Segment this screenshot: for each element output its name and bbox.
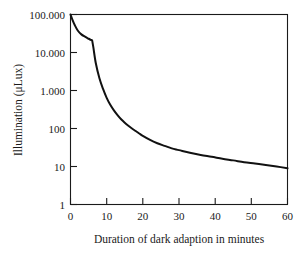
x-tick-labels: 0 10 20 30 40 50 60 — [68, 210, 294, 222]
y-tick-label: 1.000 — [40, 85, 65, 97]
y-tick-label: 100 — [49, 123, 66, 135]
y-axis-title: Illumination (μLux) — [12, 64, 25, 156]
y-tick-label: 100.000 — [29, 9, 65, 21]
y-tick-label: 10 — [54, 161, 66, 173]
y-tick-label: 1 — [60, 199, 66, 211]
y-tick-label: 10.000 — [35, 47, 66, 59]
x-tick-label: 0 — [68, 210, 74, 222]
x-axis-title: Duration of dark adaption in minutes — [94, 233, 265, 246]
x-tick-label: 30 — [174, 210, 186, 222]
x-tick-label: 60 — [282, 210, 294, 222]
semilog-line-chart: 100.000 10.000 1.000 100 10 1 0 10 20 30… — [0, 0, 307, 256]
chart-figure: 100.000 10.000 1.000 100 10 1 0 10 20 30… — [0, 0, 307, 256]
x-tick-label: 50 — [246, 210, 258, 222]
y-tick-labels: 100.000 10.000 1.000 100 10 1 — [29, 9, 65, 211]
x-tick-label: 40 — [210, 210, 222, 222]
plot-frame — [71, 15, 288, 205]
y-tick-marks — [71, 15, 78, 205]
x-tick-label: 20 — [137, 210, 149, 222]
x-tick-marks — [71, 198, 288, 205]
illumination-decay-curve — [71, 15, 288, 169]
x-tick-label: 10 — [101, 210, 113, 222]
